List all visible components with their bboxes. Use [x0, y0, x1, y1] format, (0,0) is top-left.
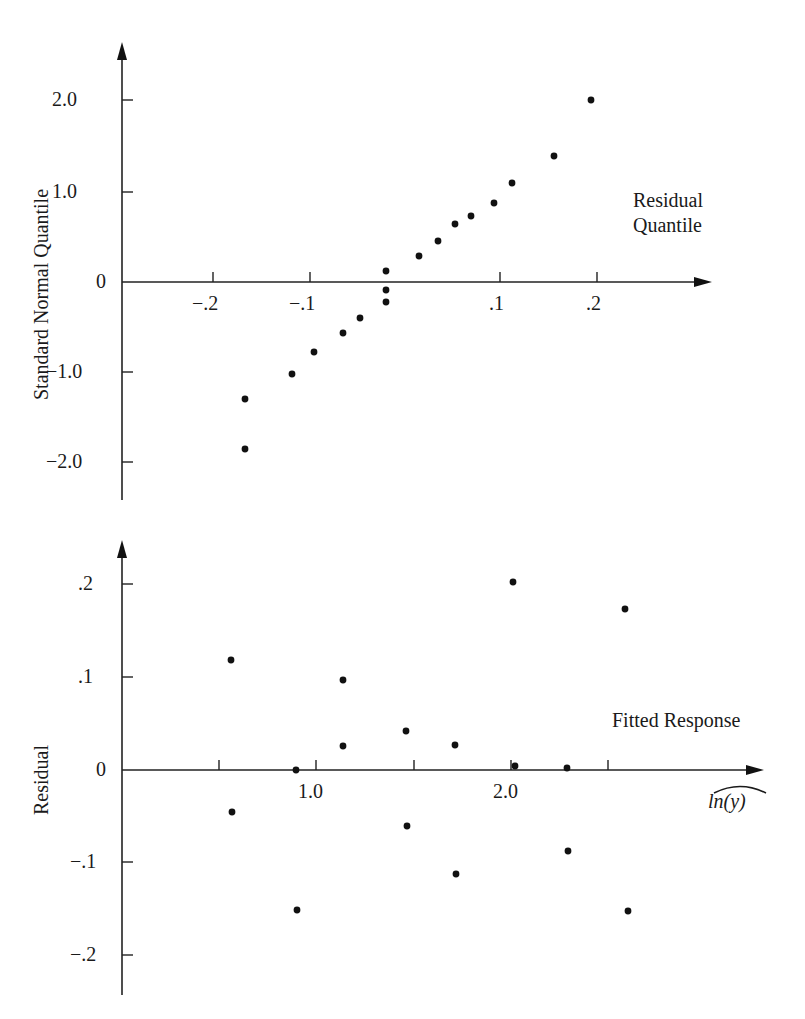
x-tick-label-neg02: −.2: [192, 292, 218, 315]
data-point: [311, 349, 318, 356]
normal-quantile-panel: 2.0 1.0 0 −1.0 −2.0 −.2 −.1 .1 .2 Residu…: [0, 0, 805, 510]
data-point: [512, 763, 519, 770]
data-point: [468, 213, 475, 220]
data-point: [435, 238, 442, 245]
data-point: [491, 200, 498, 207]
y-axis-group: [117, 42, 127, 500]
x-axis-symbol-lny: ln(y): [708, 790, 746, 813]
residual-vs-fitted-panel: .2 .1 0 −.1 −.2 1.0 2.0 Fitted Response …: [0, 510, 805, 1019]
y-tick-label-0: 0: [96, 270, 106, 293]
data-point: [293, 767, 300, 774]
y-tick-label-neg2: −2.0: [46, 450, 82, 473]
data-point: [453, 871, 460, 878]
y-axis-title-standard-normal-quantile: Standard Normal Quantile: [30, 189, 53, 400]
data-point: [625, 908, 632, 915]
data-point: [340, 743, 347, 750]
data-point: [383, 299, 390, 306]
data-point: [228, 657, 235, 664]
data-point: [383, 268, 390, 275]
x-tick-label-01: .1: [489, 292, 504, 315]
data-point: [403, 728, 410, 735]
residual-vs-fitted-svg: [0, 510, 805, 1019]
data-point: [510, 579, 517, 586]
y-axis-arrowhead-2: [117, 540, 127, 558]
data-point: [383, 287, 390, 294]
x-tick-label-02: .2: [586, 292, 601, 315]
data-point: [357, 315, 364, 322]
data-point: [242, 446, 249, 453]
scatter-points-normal-quantile: [242, 97, 595, 453]
data-point: [340, 330, 347, 337]
data-point: [404, 823, 411, 830]
data-point: [588, 97, 595, 104]
y-tick-label-2: 2.0: [52, 88, 77, 111]
y-tick-label-p1: .1: [78, 665, 93, 688]
x-axis-title-fitted-response: Fitted Response: [612, 708, 740, 733]
data-point: [509, 180, 516, 187]
normal-quantile-svg: [0, 0, 805, 510]
data-point: [565, 848, 572, 855]
y-axis-group-2: [117, 540, 127, 995]
x-axis-group: [122, 277, 712, 287]
scatter-points-residual-fitted: [228, 579, 632, 915]
y-ticks: [122, 100, 133, 462]
data-point: [564, 765, 571, 772]
data-point: [242, 396, 249, 403]
x-ticks: [213, 272, 597, 282]
x-axis-title-line-2: Quantile: [633, 214, 702, 236]
x-axis-arrowhead-2: [746, 765, 764, 775]
data-point: [416, 253, 423, 260]
data-point: [551, 153, 558, 160]
y-tick-label-z0: 0: [96, 758, 106, 781]
y-tick-label-p2: .2: [78, 572, 93, 595]
x-axis-title-residual-quantile: ResidualQuantile: [633, 188, 703, 238]
y-tick-label-1: 1.0: [52, 180, 77, 203]
y-axis-arrowhead: [117, 42, 127, 60]
data-point: [452, 742, 459, 749]
x-tick-label-20: 2.0: [493, 780, 518, 803]
x-axis-title-line-1: Residual: [633, 189, 703, 211]
y-tick-label-n2: −.2: [70, 943, 96, 966]
x-tick-label-neg01: −.1: [289, 292, 315, 315]
y-axis-title-residual: Residual: [30, 745, 53, 815]
data-point: [289, 371, 296, 378]
data-point: [294, 907, 301, 914]
x-axis-arrowhead: [694, 277, 712, 287]
x-tick-label-10: 1.0: [298, 780, 323, 803]
x-ticks-2: [219, 760, 608, 770]
data-point: [229, 809, 236, 816]
data-point: [340, 677, 347, 684]
data-point: [452, 221, 459, 228]
data-point: [622, 606, 629, 613]
y-tick-label-n1: −.1: [70, 850, 96, 873]
